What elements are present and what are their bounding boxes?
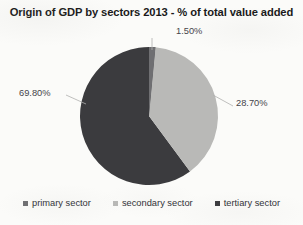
legend-swatch-tertiary-icon xyxy=(215,201,220,206)
legend-label-tertiary: tertiary sector xyxy=(224,198,280,208)
legend-item-secondary[interactable]: secondary sector xyxy=(113,198,193,208)
pie-label-primary-value: 1.50% xyxy=(176,26,202,36)
legend-swatch-secondary-icon xyxy=(113,201,118,206)
pie-label-secondary-value: 28.70% xyxy=(236,98,268,108)
chart-title: Origin of GDP by sectors 2013 - % of tot… xyxy=(0,6,303,18)
legend-label-primary: primary sector xyxy=(32,198,91,208)
legend-item-tertiary[interactable]: tertiary sector xyxy=(215,198,280,208)
legend-swatch-primary-icon xyxy=(23,201,28,206)
legend-label-secondary: secondary sector xyxy=(122,198,193,208)
pie-label-tertiary-value: 69.80% xyxy=(19,88,51,98)
legend-item-primary[interactable]: primary sector xyxy=(23,198,91,208)
chart-legend: primary sector secondary sector tertiary… xyxy=(0,198,303,208)
pie-chart xyxy=(0,0,303,225)
